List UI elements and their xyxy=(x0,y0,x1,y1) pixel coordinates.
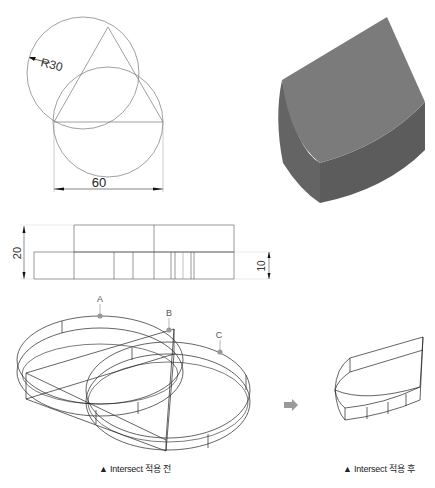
rendered-solid xyxy=(278,17,425,203)
result-top-face xyxy=(335,337,423,396)
cylinder-a-top-inner xyxy=(22,344,178,404)
front-view xyxy=(20,225,272,279)
cylinder-c-bottom xyxy=(86,354,250,450)
height-label-10: 10 xyxy=(256,260,267,272)
lower-block xyxy=(34,252,234,279)
caption-after: ▲ Intersect 적용 후 xyxy=(343,462,415,475)
svg-text:C: C xyxy=(216,330,223,340)
drawing-canvas: R30 60 20 1 xyxy=(0,0,435,488)
marker-a: A xyxy=(97,294,103,319)
marker-b: B xyxy=(166,308,172,333)
dim20-arrow-bottom xyxy=(23,272,26,279)
svg-text:A: A xyxy=(97,294,103,304)
top-view xyxy=(27,17,163,192)
height-label-20: 20 xyxy=(11,247,23,259)
width-label: 60 xyxy=(92,175,106,190)
transform-arrow-icon xyxy=(284,399,298,411)
vertical-edges xyxy=(74,252,194,279)
caption-before: ▲ Intersect 적용 전 xyxy=(99,462,171,475)
cylinder-a-top xyxy=(17,316,183,404)
triangle xyxy=(54,27,163,122)
iso-after xyxy=(335,337,423,420)
radius-arrowhead xyxy=(29,57,36,61)
radius-label: R30 xyxy=(39,55,64,74)
svg-text:B: B xyxy=(166,308,172,318)
marker-c: C xyxy=(216,330,223,355)
dim-arrow-right xyxy=(153,188,163,191)
dim-arrow-left xyxy=(54,188,64,191)
dim20-arrow-top xyxy=(23,226,26,233)
cylinder-a-bottom xyxy=(17,328,183,416)
